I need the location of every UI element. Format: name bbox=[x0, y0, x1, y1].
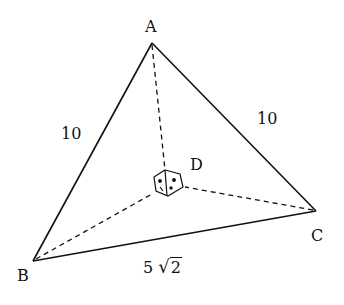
vertex-label-b: B bbox=[17, 268, 29, 284]
edge-bc bbox=[33, 211, 316, 261]
edge-ab bbox=[33, 43, 152, 261]
edge-label-ab: 10 bbox=[61, 126, 81, 142]
sqrt-symbol-icon: √ bbox=[158, 256, 169, 277]
edge-ad bbox=[152, 45, 165, 170]
edge-bd bbox=[36, 194, 152, 259]
edge-label-ac: 10 bbox=[257, 111, 277, 127]
tetrahedron-diagram: A B C D 10 10 5 √2 bbox=[0, 0, 344, 305]
edge-label-bc-coef: 5 bbox=[143, 258, 153, 277]
right-angle-cube-icon bbox=[154, 170, 183, 196]
edge-label-bc-radicand: 2 bbox=[170, 257, 182, 277]
edge-ac bbox=[152, 43, 316, 211]
vertex-label-a: A bbox=[145, 19, 157, 35]
edge-cd bbox=[185, 187, 313, 210]
edge-label-bc: 5 √2 bbox=[143, 258, 182, 276]
vertex-label-d: D bbox=[190, 157, 203, 173]
vertex-label-c: C bbox=[311, 228, 323, 244]
